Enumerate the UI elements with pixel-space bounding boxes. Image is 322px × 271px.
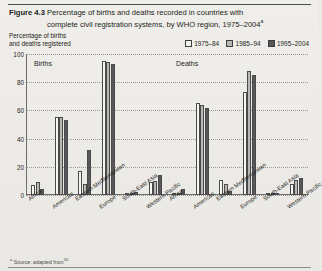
legend-item-1975-84: 1975–84 <box>185 40 219 47</box>
y-axis-title-line1: Percentage of births <box>9 32 129 40</box>
x-label-slot: Americas <box>50 196 74 244</box>
x-label-slot: Europe <box>97 196 121 244</box>
x-label-slot: Africa <box>167 196 191 244</box>
x-labels-deaths: AfricaAmericasEastern MediterraneanEurop… <box>167 196 308 244</box>
y-tick-label-80: 80 <box>8 79 24 86</box>
x-tick-label-europe: Europe <box>239 194 258 210</box>
y-tick-label-60: 60 <box>8 107 24 114</box>
bar <box>200 105 204 195</box>
legend-label-1975-84: 1975–84 <box>194 40 219 47</box>
bar <box>64 120 68 195</box>
y-tick-label-0: 0 <box>8 192 24 199</box>
legend-swatch-icon-1995-2004 <box>268 40 275 47</box>
bar-group <box>266 54 279 195</box>
legend-item-1995-2004: 1995–2004 <box>268 40 310 47</box>
bar <box>196 103 200 195</box>
y-axis-title: Percentage of births and deaths register… <box>9 32 129 47</box>
footnote-marker: a <box>10 257 12 262</box>
title-footnote-marker: a <box>261 18 264 24</box>
bar-group <box>125 54 138 195</box>
plot-area: 020406080100 Births Deaths <box>26 54 308 195</box>
y-tick-label-40: 40 <box>8 135 24 142</box>
legend-swatch-icon-1985-94 <box>226 40 233 47</box>
bar-group <box>196 54 209 195</box>
x-label-slot: South-East Asia <box>261 196 285 244</box>
footnote-text: Source: adapted from <box>14 259 64 265</box>
bar-group <box>31 54 44 195</box>
legend-swatch-icon-1975-84 <box>185 40 192 47</box>
figure-title-line2: complete civil registration systems, by … <box>47 20 261 29</box>
bar <box>294 180 298 196</box>
bar <box>149 182 153 195</box>
panel-births <box>26 54 167 195</box>
y-axis-title-line2: and deaths registered <box>9 40 129 48</box>
x-axis-labels: AfricaAmericasEastern MediterraneanEurop… <box>26 196 308 244</box>
y-tick-label-20: 20 <box>8 163 24 170</box>
figure-title: Figure 4.3 Percentage of births and deat… <box>9 8 311 29</box>
legend-label-1985-94: 1985–94 <box>236 40 261 47</box>
bar-groups <box>26 54 308 195</box>
bar <box>55 117 59 195</box>
x-label-slot: South-East Asia <box>120 196 144 244</box>
panel-deaths <box>167 54 308 195</box>
footnote: a Source: adapted from50 <box>10 257 68 265</box>
x-tick-label-europe: Europe <box>98 194 117 210</box>
x-label-slot: Eastern Mediterranean <box>73 196 97 244</box>
y-tick-label-100: 100 <box>8 51 24 58</box>
x-label-slot: Western Pacific <box>144 196 168 244</box>
x-label-slot: Western Pacific <box>285 196 309 244</box>
bar <box>153 181 157 195</box>
bar <box>290 184 294 195</box>
x-label-slot: Europe <box>238 196 262 244</box>
footnote-reference: 50 <box>64 257 69 262</box>
x-label-slot: Eastern Mediterranean <box>214 196 238 244</box>
x-label-slot: Africa <box>26 196 50 244</box>
legend: 1975–84 1985–94 1995–2004 <box>185 40 309 47</box>
x-label-slot: Americas <box>191 196 215 244</box>
x-labels-births: AfricaAmericasEastern MediterraneanEurop… <box>26 196 167 244</box>
bottom-rule <box>8 267 311 268</box>
figure-title-line1: Percentage of births and deaths recorded… <box>47 8 243 17</box>
bar <box>59 117 63 195</box>
bar-group <box>172 54 185 195</box>
top-rule <box>8 4 311 5</box>
bar <box>205 108 209 195</box>
bar-group <box>78 54 91 195</box>
legend-item-1985-94: 1985–94 <box>226 40 260 47</box>
bar-group <box>219 54 232 195</box>
bar-group <box>55 54 68 195</box>
legend-label-1995-2004: 1995–2004 <box>277 40 309 47</box>
figure-label: Figure 4.3 <box>9 8 45 17</box>
